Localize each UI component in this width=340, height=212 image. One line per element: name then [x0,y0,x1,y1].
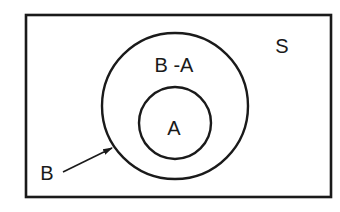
universe-label: S [275,35,288,57]
set-a-label: A [167,117,181,139]
pointer-arrow [63,148,112,172]
set-b-label: B [40,162,53,184]
b-minus-a-label: B -A [155,54,195,76]
venn-diagram: S B -A A B [0,0,340,212]
